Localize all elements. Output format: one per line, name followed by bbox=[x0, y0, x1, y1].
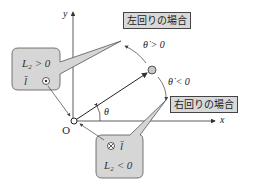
origin-label: O bbox=[62, 126, 70, 136]
angle-arc bbox=[97, 106, 100, 121]
callout-lower-pointer bbox=[80, 124, 104, 140]
into-page-cross-icon bbox=[108, 143, 115, 150]
x-axis-label: x bbox=[220, 115, 224, 125]
angular-momentum-negative-text: L₂ < 0 bbox=[104, 160, 132, 171]
counterclockwise-case-label: 左回りの場合 bbox=[123, 12, 191, 29]
y-axis-label: y bbox=[63, 9, 67, 19]
particle-ball bbox=[148, 66, 156, 74]
callout-upper-pointer bbox=[48, 86, 70, 116]
origin-marker bbox=[71, 118, 77, 124]
theta-dot-negative-label: θ̇ < 0 bbox=[168, 77, 190, 87]
l-vector-upper-text: l̄ bbox=[24, 76, 27, 87]
angle-theta-label: θ bbox=[104, 107, 109, 117]
angular-momentum-positive-text: L₂ > 0 bbox=[22, 58, 50, 69]
out-of-page-dot-icon bbox=[43, 78, 50, 85]
theta-dot-positive-label: θ̇ > 0 bbox=[143, 40, 165, 50]
clockwise-case-label: 右回りの場合 bbox=[170, 96, 238, 113]
cw-rotation-arrow bbox=[158, 77, 166, 100]
l-vector-lower-text: l̄ bbox=[120, 141, 123, 152]
position-vector bbox=[77, 73, 147, 119]
